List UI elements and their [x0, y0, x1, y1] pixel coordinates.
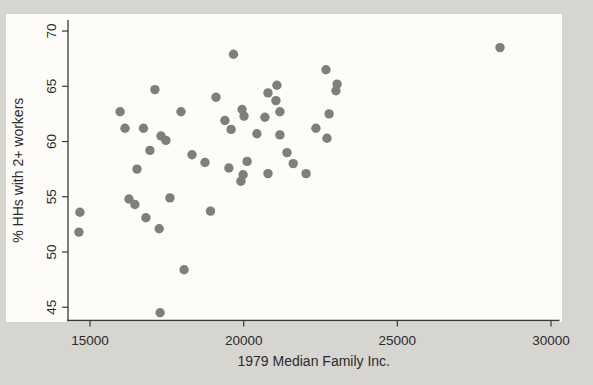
- data-point: [139, 124, 148, 133]
- data-point: [141, 213, 150, 222]
- data-point: [324, 109, 333, 118]
- plot-area: [6, 14, 562, 322]
- data-point: [145, 146, 154, 155]
- y-tick-label: 70: [44, 24, 59, 39]
- data-point: [289, 159, 298, 168]
- y-tick-label: 60: [44, 134, 59, 149]
- x-tick-label: 20000: [225, 333, 263, 348]
- y-axis-label: % HHs with 2+ workers: [10, 98, 26, 243]
- data-point: [260, 113, 269, 122]
- y-tick-label: 65: [44, 79, 59, 94]
- data-point: [275, 107, 284, 116]
- data-point: [220, 116, 229, 125]
- data-point: [176, 107, 185, 116]
- y-tick-label: 55: [44, 189, 59, 204]
- data-point: [252, 129, 261, 138]
- data-point: [161, 136, 170, 145]
- data-point: [311, 124, 320, 133]
- data-point: [239, 111, 248, 120]
- data-point: [321, 65, 330, 74]
- data-point: [263, 169, 272, 178]
- data-point: [331, 86, 340, 95]
- data-point: [150, 85, 159, 94]
- data-point: [130, 200, 139, 209]
- chart-canvas: 15000200002500030000 455055606570 1979 M…: [0, 0, 593, 385]
- data-point: [74, 227, 83, 236]
- data-point: [115, 107, 124, 116]
- data-point: [272, 81, 281, 90]
- y-tick-label: 45: [44, 300, 59, 315]
- data-point: [229, 50, 238, 59]
- data-point: [495, 43, 504, 52]
- data-point: [75, 208, 84, 217]
- data-point: [179, 265, 188, 274]
- data-point: [271, 96, 280, 105]
- data-point: [275, 130, 284, 139]
- data-point: [242, 157, 251, 166]
- x-tick-label: 30000: [532, 333, 570, 348]
- scatter-plot-figure: 15000200002500030000 455055606570 1979 M…: [0, 0, 593, 385]
- data-point: [120, 124, 129, 133]
- data-point: [165, 193, 174, 202]
- data-point: [206, 206, 215, 215]
- y-tick-label: 50: [44, 244, 59, 259]
- data-point: [322, 134, 331, 143]
- x-axis-ticks: 15000200002500030000: [71, 321, 570, 348]
- data-point: [301, 169, 310, 178]
- data-point: [155, 308, 164, 317]
- data-point: [211, 93, 220, 102]
- data-point: [187, 150, 196, 159]
- data-point: [282, 148, 291, 157]
- x-axis-label: 1979 Median Family Inc.: [237, 353, 390, 369]
- data-point: [263, 88, 272, 97]
- x-tick-label: 15000: [71, 333, 109, 348]
- data-point: [132, 164, 141, 173]
- data-point: [200, 158, 209, 167]
- data-point: [155, 224, 164, 233]
- data-point: [226, 125, 235, 134]
- data-point: [236, 177, 245, 186]
- x-tick-label: 25000: [379, 333, 417, 348]
- data-point: [224, 163, 233, 172]
